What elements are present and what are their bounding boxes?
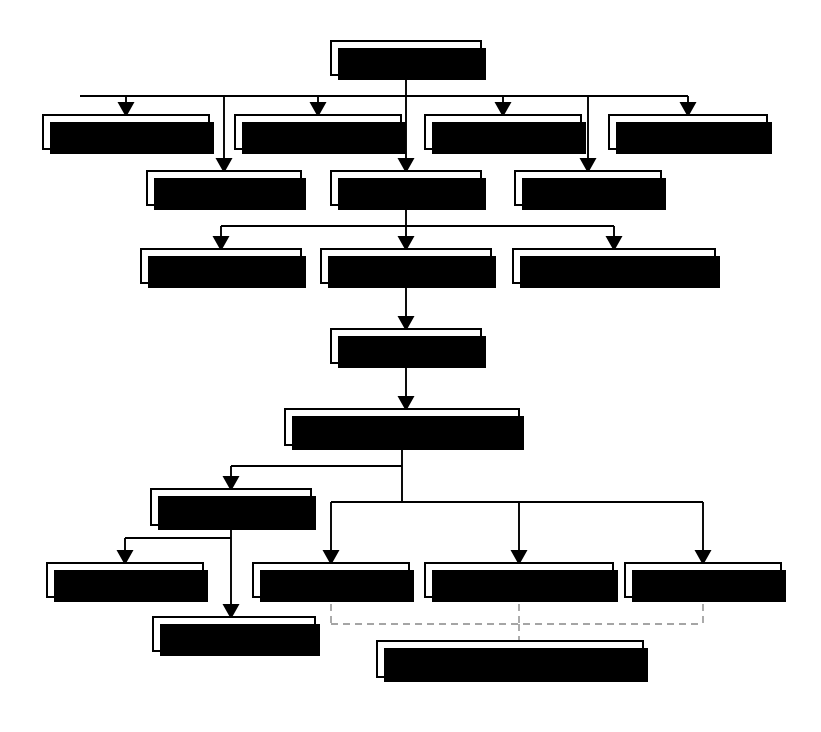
node-label: The Firm — [364, 49, 448, 68]
node-label: Regular workers — [336, 257, 476, 276]
node-label: Hive off units — [67, 123, 186, 142]
node-core-non-core[interactable]: Core/Non-core — [330, 328, 482, 364]
node-casual-labour[interactable]: Casual labour — [140, 248, 302, 284]
node-label: Individual contract — [440, 571, 598, 590]
node-individual-contract[interactable]: Individual contract — [424, 562, 614, 598]
node-label: Duration, Terms, Coverage — [400, 650, 621, 669]
node-family-unpaid[interactable]: Family/unpaid labour — [512, 248, 716, 284]
node-contract-labour[interactable]: Contract labour — [234, 114, 402, 150]
node-label: Subcontract — [172, 179, 276, 198]
node-label: Teleworkers — [535, 179, 642, 198]
node-agency-labour[interactable]: Agency labour — [424, 114, 582, 150]
node-direct-labour[interactable]: Direct labour — [330, 170, 482, 206]
node-regular-workers[interactable]: Regular workers — [320, 248, 492, 284]
node-label: Contract labour — [252, 123, 384, 142]
node-label: Family/unpaid labour — [525, 257, 703, 276]
node-subcontract[interactable]: Subcontract — [146, 170, 302, 206]
node-label: Informal — [85, 571, 164, 590]
node-duration-terms[interactable]: Duration, Terms, Coverage — [376, 640, 644, 678]
node-label: Homeworkers — [628, 123, 749, 142]
node-apprentice[interactable]: Apprentice — [152, 616, 316, 652]
node-label: Casual labour — [162, 257, 280, 276]
node-probation[interactable]: Probation — [252, 562, 410, 598]
node-informal[interactable]: Informal — [46, 562, 204, 598]
flowchart-canvas: The FirmHive off unitsContract labourAge… — [0, 0, 821, 732]
node-group-contract[interactable]: Group contract — [624, 562, 782, 598]
node-hive-off-units[interactable]: Hive off units — [42, 114, 210, 150]
node-label: Employment contract — [313, 418, 491, 437]
node-employment-contract[interactable]: Employment contract — [284, 408, 520, 446]
node-trainee[interactable]: Trainee — [150, 488, 312, 526]
node-label: Core/Non-core — [342, 337, 469, 356]
node-label: Probation — [288, 571, 375, 590]
node-homeworkers[interactable]: Homeworkers — [608, 114, 768, 150]
node-label: Trainee — [196, 498, 266, 517]
node-label: Apprentice — [185, 625, 282, 644]
node-teleworkers[interactable]: Teleworkers — [514, 170, 662, 206]
node-label: Group contract — [639, 571, 767, 590]
node-label: Agency labour — [440, 123, 566, 142]
node-the-firm[interactable]: The Firm — [330, 40, 482, 76]
node-label: Direct labour — [349, 179, 463, 198]
